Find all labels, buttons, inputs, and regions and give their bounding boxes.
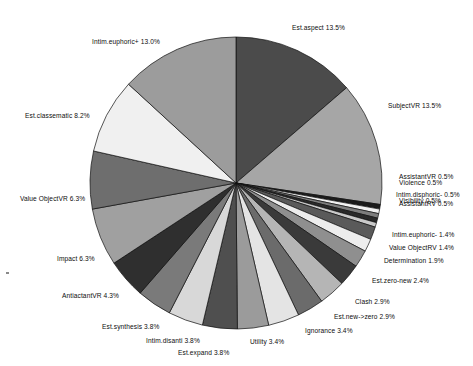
slice-label-est-expand: Est.expand 3.8% bbox=[178, 349, 229, 357]
slice-label-subjectvr: SubjectVR 13.5% bbox=[388, 102, 441, 110]
pie-chart: Est.aspect 13.5% Intim.euphoric+ 13.0% E… bbox=[0, 0, 473, 366]
slice-label-antiactantvr: AntiactantVR 4.3% bbox=[62, 292, 119, 300]
stray-artifact-mark bbox=[6, 272, 9, 274]
slice-label-intim-euphoric-minus: Intim.euphoric- 1.4% bbox=[392, 231, 454, 239]
slice-label-est-zero-new: Est.zero-new 2.4% bbox=[372, 277, 429, 285]
slice-label-determination: Determination 1.9% bbox=[384, 257, 444, 265]
slice-label-value-objectvr: Value ObjectVR 6.3% bbox=[20, 195, 85, 203]
slice-label-clash: Clash 2.9% bbox=[355, 298, 390, 306]
slice-label-est-classematic: Est.classematic 8.2% bbox=[25, 112, 90, 120]
slice-label-est-synthesis: Est.synthesis 3.8% bbox=[102, 323, 160, 331]
slice-label-intim-disanti: Intim.disanti 3.8% bbox=[146, 337, 200, 345]
slice-label-est-aspect: Est.aspect 13.5% bbox=[292, 24, 345, 32]
slice-label-value-objectrv: Value ObjectRV 1.4% bbox=[389, 244, 454, 252]
slice-label-est-new-to-zero: Est.new->zero 2.9% bbox=[334, 313, 395, 321]
slice-label-impact: Impact 6.3% bbox=[57, 255, 95, 263]
pie-slice-group bbox=[90, 37, 382, 329]
slice-label-intim-euphoric-plus: Intim.euphoric+ 13.0% bbox=[92, 38, 160, 46]
slice-label-utility: Utility 3.4% bbox=[250, 338, 284, 346]
slice-label-assistantrv: AssistantRV 0.5% bbox=[399, 200, 453, 208]
slice-label-violence: Violence 0.5% bbox=[399, 179, 442, 187]
slice-label-ignorance: Ignorance 3.4% bbox=[305, 327, 353, 335]
